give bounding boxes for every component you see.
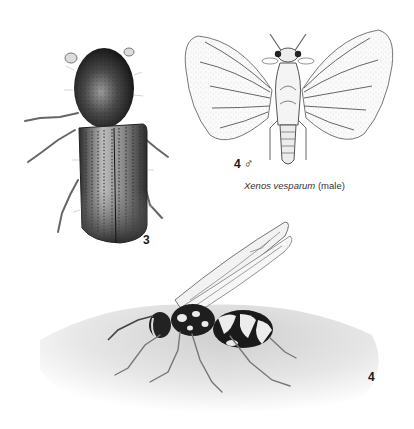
xenos-caption: Xenos vesparum (male)	[244, 180, 345, 191]
wasp-illustration	[40, 222, 379, 413]
xenos-figure-number: 4♂	[234, 156, 253, 171]
illustration-plate	[0, 0, 414, 429]
species-note: (male)	[318, 180, 345, 191]
xenos-number: 4	[234, 157, 241, 171]
xenos-illustration	[185, 30, 393, 164]
male-symbol-icon: ♂	[244, 156, 254, 171]
wasp-figure-number: 4	[368, 370, 375, 384]
beetle-figure-number: 3	[143, 233, 150, 247]
beetle-illustration	[25, 48, 168, 243]
species-name: Xenos vesparum	[244, 180, 315, 191]
